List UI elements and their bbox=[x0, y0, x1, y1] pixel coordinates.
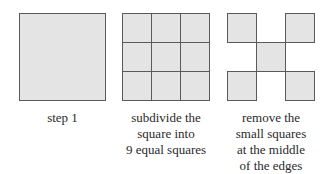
corner-square-bottom-left bbox=[227, 71, 257, 101]
grid-cell bbox=[180, 71, 210, 101]
caption-line: square into bbox=[106, 126, 226, 142]
grid-cell bbox=[151, 42, 181, 72]
grid-cell bbox=[122, 13, 152, 43]
grid-cell bbox=[151, 13, 181, 43]
corner-square-bottom-right bbox=[285, 71, 315, 101]
caption-line: remove the bbox=[211, 110, 328, 126]
full-square bbox=[19, 13, 106, 101]
corner-square-top-right bbox=[285, 13, 315, 43]
grid-cell bbox=[180, 13, 210, 43]
caption-line: at the middle bbox=[211, 142, 328, 158]
step-1-caption: step 1 bbox=[19, 110, 106, 126]
caption-line: small squares bbox=[211, 126, 328, 142]
caption-line: subdivide the bbox=[106, 110, 226, 126]
step-2-caption: subdivide the square into 9 equal square… bbox=[106, 110, 226, 158]
caption-line: of the edges bbox=[211, 158, 328, 174]
grid-cell bbox=[122, 71, 152, 101]
corner-square-top-left bbox=[227, 13, 257, 43]
grid-cell bbox=[122, 42, 152, 72]
caption-line: step 1 bbox=[19, 110, 106, 126]
step-3-caption: remove the small squares at the middle o… bbox=[211, 110, 328, 174]
center-square bbox=[256, 42, 286, 72]
caption-line: 9 equal squares bbox=[106, 142, 226, 158]
grid-cell bbox=[180, 42, 210, 72]
grid-cell bbox=[151, 71, 181, 101]
